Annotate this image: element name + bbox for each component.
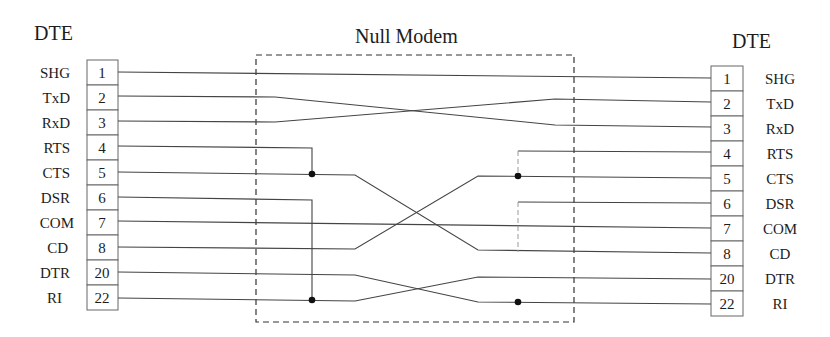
right-pin-number: 20 [720, 271, 735, 287]
right-signal-label: RxD [766, 121, 795, 137]
wire-cd-to-cts [118, 176, 711, 249]
right-signal-label: RI [773, 296, 788, 312]
right-connector: 1 2 3 4 5 6 7 8 20 22 SHG TxD RxD RTS CT… [711, 66, 797, 316]
left-pin-number: 3 [98, 115, 106, 131]
null-modem-diagram: DTE Null Modem DTE SHG TxD RxD RTS CTS D… [0, 0, 830, 337]
wire-cts-to-cd [118, 172, 711, 253]
right-pin-number: 3 [723, 121, 731, 137]
right-pin-number: 22 [720, 296, 735, 312]
left-pin-number: 6 [98, 190, 106, 206]
right-pin-number: 4 [723, 146, 731, 162]
right-pin-number: 2 [723, 96, 731, 112]
wire-right-dsr-stub [518, 202, 711, 203]
left-pin-number: 22 [95, 290, 110, 306]
junction-dot-left-ri [309, 297, 316, 304]
right-pin-number: 1 [723, 71, 731, 87]
wire-shg [118, 72, 711, 78]
left-signal-label: RI [47, 290, 62, 306]
junction-dot-right-ri [515, 299, 522, 306]
left-signal-label: SHG [40, 65, 70, 81]
left-signal-label: CD [47, 240, 68, 256]
left-signal-label: RTS [43, 140, 70, 156]
left-pin-number: 5 [98, 165, 106, 181]
left-pin-number: 7 [98, 215, 106, 231]
right-pin-number: 6 [723, 196, 731, 212]
junction-dot-left-cts [309, 171, 316, 178]
right-signal-label: RTS [767, 146, 794, 162]
left-signal-label: DSR [41, 190, 70, 206]
right-signal-label: SHG [765, 71, 795, 87]
wire-ri-to-dtr [118, 277, 711, 301]
wire-com [118, 221, 711, 228]
left-pin-number: 8 [98, 240, 106, 256]
right-signal-label: DSR [765, 196, 794, 212]
right-pin-number: 5 [723, 171, 731, 187]
wiring [118, 72, 711, 304]
null-modem-box [256, 55, 574, 322]
left-pin-number: 1 [98, 65, 106, 81]
left-signal-label: TxD [43, 90, 71, 106]
junctions [309, 171, 522, 306]
wire-rxd-to-txd [118, 99, 711, 122]
right-signal-label: CTS [766, 171, 794, 187]
left-dte-title: DTE [34, 22, 73, 44]
left-signal-label: DTR [40, 265, 70, 281]
left-pin-number: 20 [95, 265, 110, 281]
right-dte-title: DTE [732, 30, 771, 52]
left-signal-label: CTS [42, 165, 70, 181]
left-signal-label: COM [40, 215, 74, 231]
junction-dot-right-cts [515, 173, 522, 180]
left-signal-label: RxD [42, 115, 71, 131]
wire-right-rts-stub [518, 151, 711, 152]
left-connector: SHG TxD RxD RTS CTS DSR COM CD DTR RI 1 … [40, 60, 118, 310]
right-signal-label: CD [770, 246, 791, 262]
right-signal-label: COM [763, 221, 797, 237]
wire-left-rts-loop [118, 146, 312, 174]
right-signal-label: TxD [766, 96, 794, 112]
left-pin-number: 4 [98, 140, 106, 156]
right-pin-number: 7 [723, 221, 731, 237]
left-pin-number: 2 [98, 90, 106, 106]
right-signal-label: DTR [765, 271, 795, 287]
right-pin-number: 8 [723, 246, 731, 262]
null-modem-title: Null Modem [355, 25, 458, 47]
